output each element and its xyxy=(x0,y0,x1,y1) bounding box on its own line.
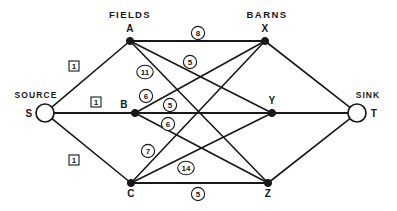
capacity-c-y: 14 xyxy=(178,161,194,175)
node-t-marker xyxy=(348,104,366,122)
node-t[interactable]: T xyxy=(348,104,377,122)
edge-x-t xyxy=(265,41,350,107)
headings-layer: FIELDSBARNSSOURCESINK xyxy=(15,9,381,100)
capacity-a-y: 5 xyxy=(183,55,196,68)
capacity-c-y-value: 14 xyxy=(182,164,191,173)
network-diagram: SABCXYZT 11185116567145 FIELDSBARNSSOURC… xyxy=(0,0,397,211)
capacity-a-y-value: 5 xyxy=(188,58,193,67)
capacity-a-x: 8 xyxy=(191,26,204,39)
node-x-label: X xyxy=(261,23,268,34)
capacity-b-x: 6 xyxy=(139,89,152,102)
node-b-label: B xyxy=(120,99,128,110)
capacity-b-x-value: 6 xyxy=(144,92,149,101)
edge-b-x xyxy=(135,41,265,113)
capacity-s-b-value: 1 xyxy=(94,98,99,107)
node-s-marker xyxy=(36,104,54,122)
node-c-marker xyxy=(127,179,134,186)
capacity-a-z: 11 xyxy=(137,65,153,79)
node-c[interactable]: C xyxy=(127,179,135,199)
group-heading-fields: FIELDS xyxy=(109,9,151,20)
edge-s-c xyxy=(52,119,131,183)
node-b-marker xyxy=(131,109,138,116)
node-x[interactable]: X xyxy=(261,23,268,45)
edge-z-t xyxy=(268,119,350,183)
node-s[interactable]: S xyxy=(25,104,54,122)
node-x-marker xyxy=(261,37,268,44)
capacity-s-a: 1 xyxy=(69,61,79,71)
capacity-s-b: 1 xyxy=(91,97,101,107)
capacity-c-z-value: 5 xyxy=(196,190,201,199)
node-z-marker xyxy=(264,179,271,186)
node-z[interactable]: Z xyxy=(264,179,271,199)
node-a-marker xyxy=(126,37,133,44)
node-y-label: Y xyxy=(268,95,275,106)
capacity-s-c-value: 1 xyxy=(72,156,77,165)
capacity-b-y: 5 xyxy=(163,98,176,111)
group-heading-barns: BARNS xyxy=(247,9,288,20)
capacity-a-z-value: 11 xyxy=(141,68,150,77)
capacity-s-c: 1 xyxy=(69,155,79,165)
capacity-b-y-value: 5 xyxy=(168,101,173,110)
network-graph-canvas: SABCXYZT 11185116567145 FIELDSBARNSSOURC… xyxy=(0,0,397,211)
capacity-b-z: 6 xyxy=(161,117,174,130)
node-c-label: C xyxy=(127,188,135,199)
capacity-b-z-value: 6 xyxy=(166,120,171,129)
end-heading-sink: SINK xyxy=(356,90,381,100)
capacity-c-x: 7 xyxy=(141,144,154,157)
edges-layer xyxy=(52,41,350,183)
capacity-c-x-value: 7 xyxy=(146,147,151,156)
capacity-c-z: 5 xyxy=(191,187,204,200)
node-y[interactable]: Y xyxy=(268,95,275,117)
capacity-a-x-value: 8 xyxy=(196,29,201,38)
capacity-s-a-value: 1 xyxy=(72,62,77,71)
node-a[interactable]: A xyxy=(126,23,134,45)
node-s-label: S xyxy=(25,108,32,119)
node-a-label: A xyxy=(126,23,134,34)
node-z-label: Z xyxy=(265,188,272,199)
end-heading-source: SOURCE xyxy=(15,90,58,100)
nodes-layer: SABCXYZT xyxy=(25,23,377,199)
node-t-label: T xyxy=(371,108,378,119)
node-y-marker xyxy=(268,109,275,116)
